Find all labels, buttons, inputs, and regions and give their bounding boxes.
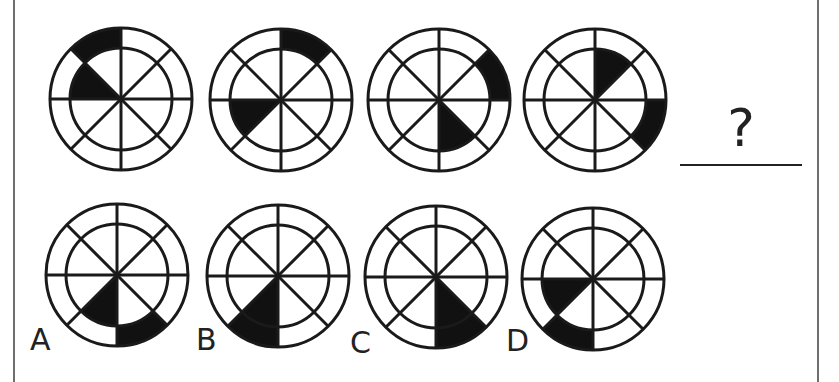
inner-shaded-sector — [439, 100, 475, 151]
inner-shaded-sector — [542, 279, 593, 315]
inner-shaded-sector — [230, 100, 281, 136]
sequence-circle-1 — [50, 28, 192, 170]
option-circle-d[interactable] — [522, 208, 664, 350]
option-circle-c[interactable] — [365, 206, 507, 348]
puzzle-canvas — [0, 0, 839, 382]
inner-shaded-sector — [595, 49, 631, 100]
option-label-b[interactable]: B — [196, 325, 217, 355]
option-label-c[interactable]: C — [350, 328, 371, 358]
sequence-circle-3 — [368, 29, 510, 171]
inner-shaded-sector — [81, 275, 117, 326]
option-circle-b[interactable] — [207, 205, 349, 347]
sequence-circle-4 — [524, 29, 666, 171]
sequence-circle-2 — [210, 29, 352, 171]
inner-shaded-sector — [70, 63, 121, 99]
question-mark: ? — [724, 98, 758, 158]
option-circle-a[interactable] — [46, 204, 188, 346]
answer-blank-line — [680, 164, 802, 166]
option-label-d[interactable]: D — [506, 326, 529, 356]
option-label-a[interactable]: A — [30, 325, 51, 355]
